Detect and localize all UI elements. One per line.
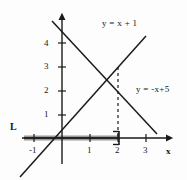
equation-label-ascending: y = x + 1 bbox=[102, 19, 137, 28]
y-tick-label-2: 2 bbox=[44, 86, 49, 95]
x-tick-label-2: 2 bbox=[115, 146, 120, 155]
equation-label-descending: y = -x+5 bbox=[136, 85, 170, 94]
y-tick-label-1: 1 bbox=[44, 110, 49, 119]
y-tick-label-4: 4 bbox=[44, 39, 49, 48]
graph-figure: 4 3 2 1 -1 1 2 3 x y = x + 1 y = -x+5 L bbox=[0, 0, 187, 180]
line-y-equals-minus-x-plus-5 bbox=[52, 21, 157, 134]
solution-set-label: L bbox=[10, 122, 17, 132]
x-tick-label-3: 3 bbox=[143, 146, 148, 155]
x-tick-label-1: 1 bbox=[87, 146, 92, 155]
x-tick-label-minus1: -1 bbox=[29, 146, 37, 155]
x-axis-label: x bbox=[166, 147, 171, 156]
line-y-equals-x-plus-1 bbox=[20, 36, 146, 177]
y-tick-label-3: 3 bbox=[44, 62, 49, 71]
